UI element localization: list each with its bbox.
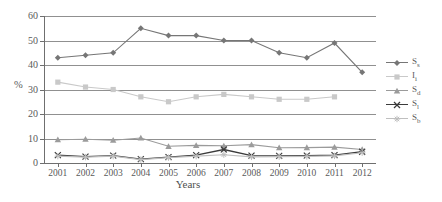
series-line — [58, 150, 362, 160]
data-point — [304, 97, 309, 102]
data-point — [138, 94, 143, 99]
data-point — [110, 153, 116, 159]
plot-area — [0, 0, 442, 202]
data-point — [111, 87, 116, 92]
series-sb — [55, 150, 366, 163]
series-sl — [55, 147, 365, 163]
series-line — [58, 138, 362, 150]
data-point — [166, 99, 171, 104]
legend-marker-icon — [386, 57, 408, 69]
legend-label: Sd — [408, 84, 421, 98]
data-point — [82, 154, 88, 160]
legend-item-ii[interactable]: Ii — [386, 70, 442, 84]
series-line — [58, 28, 362, 72]
data-point — [221, 151, 227, 157]
data-point — [138, 156, 144, 162]
legend-item-ss[interactable]: Ss — [386, 56, 442, 70]
data-point — [221, 38, 227, 44]
legend-marker-icon — [386, 71, 408, 83]
series-sd — [55, 135, 366, 152]
legend-label: Ii — [408, 70, 417, 84]
data-point — [304, 55, 310, 61]
data-point — [193, 153, 199, 159]
legend-marker-icon — [386, 85, 408, 97]
data-point — [304, 153, 310, 159]
data-point — [359, 150, 365, 156]
line-chart: % Years 0102030405060 200120022003200420… — [0, 0, 442, 202]
data-point — [276, 153, 282, 159]
data-point — [249, 94, 254, 99]
data-point — [248, 154, 254, 160]
series-line — [58, 153, 362, 160]
data-point — [83, 84, 88, 89]
data-point — [55, 153, 61, 159]
data-point — [276, 50, 282, 56]
legend-marker-icon — [386, 99, 408, 111]
legend-marker-icon — [386, 113, 408, 125]
series-ss — [55, 25, 365, 75]
data-point — [55, 55, 61, 61]
data-point — [55, 80, 60, 85]
legend-label: Ss — [408, 56, 420, 70]
data-point — [165, 154, 171, 160]
series-ii — [55, 80, 337, 105]
legend-item-sb[interactable]: Sb — [386, 112, 442, 126]
data-point — [249, 38, 255, 44]
legend: SsIiSdSlSb — [386, 56, 442, 126]
data-point — [332, 94, 337, 99]
data-point — [277, 97, 282, 102]
legend-label: Sb — [408, 112, 421, 126]
data-point — [166, 33, 172, 39]
data-point — [193, 33, 199, 39]
legend-item-sl[interactable]: Sl — [386, 98, 442, 112]
data-point — [221, 92, 226, 97]
legend-item-sd[interactable]: Sd — [386, 84, 442, 98]
data-point — [194, 94, 199, 99]
data-point — [83, 52, 89, 58]
legend-label: Sl — [408, 98, 419, 112]
